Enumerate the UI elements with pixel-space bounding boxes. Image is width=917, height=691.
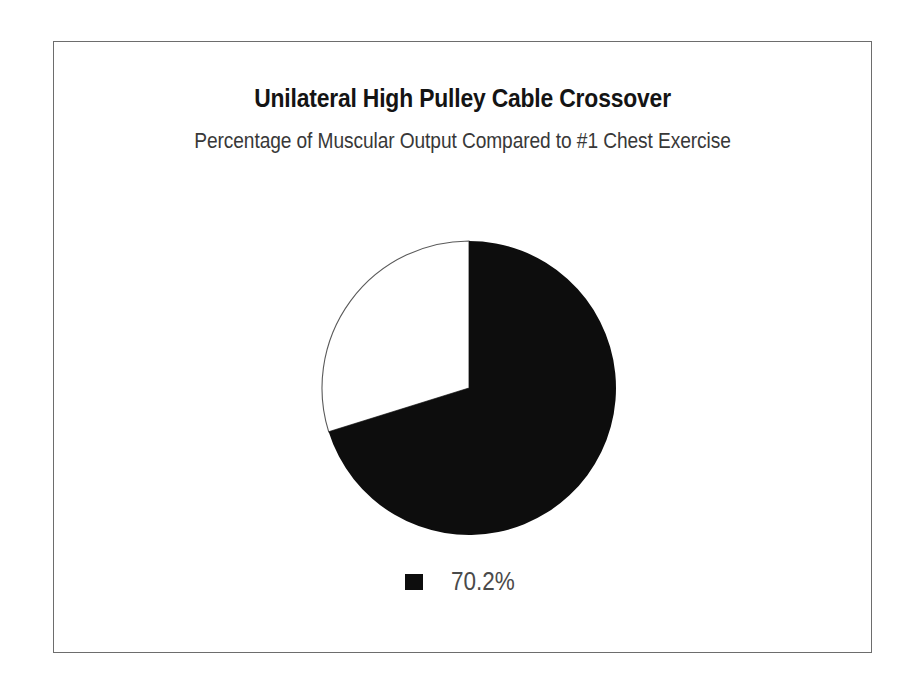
chart-subtitle: Percentage of Muscular Output Compared t… <box>107 128 818 154</box>
legend-item-label: 70.2% <box>451 567 515 596</box>
chart-frame: Unilateral High Pulley Cable Crossover P… <box>53 41 872 653</box>
pie-chart <box>319 238 619 538</box>
pie-plot-area <box>54 192 873 552</box>
legend-color-swatch <box>405 574 423 590</box>
chart-title: Unilateral High Pulley Cable Crossover <box>103 83 822 114</box>
chart-legend: 70.2% <box>54 567 873 596</box>
legend-item[interactable]: 70.2% <box>405 567 522 596</box>
